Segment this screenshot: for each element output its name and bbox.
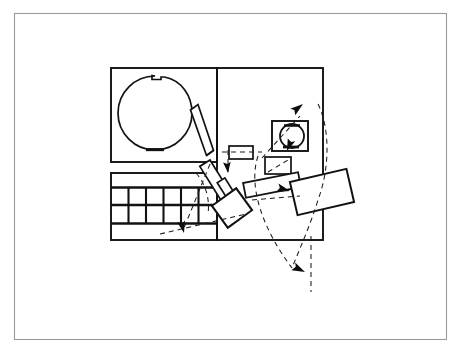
canvas-background bbox=[0, 0, 460, 353]
figure-root bbox=[0, 0, 460, 353]
figure-canvas bbox=[0, 0, 460, 353]
